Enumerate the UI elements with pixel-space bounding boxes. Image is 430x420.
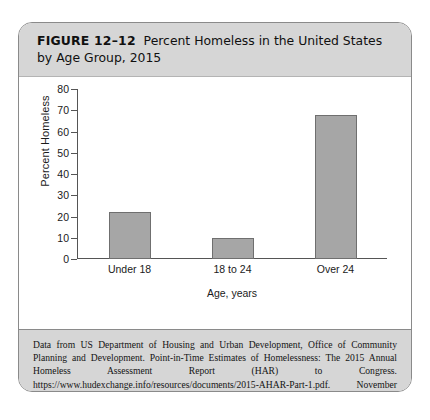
y-axis-tick-label: 80 <box>23 83 69 95</box>
y-axis-tick-label: 40 <box>23 168 69 180</box>
figure-header: FIGURE 12–12 Percent Homeless in the Uni… <box>19 23 411 77</box>
y-axis-tick-label: 30 <box>23 189 69 201</box>
figure-title-spacer <box>136 33 144 48</box>
y-axis-tick <box>71 89 77 90</box>
y-axis-tick-label: 50 <box>23 147 69 159</box>
y-axis-tick-label: 60 <box>23 126 69 138</box>
x-axis-tick-label: Over 24 <box>317 263 354 275</box>
x-axis-tick-label: Under 18 <box>108 263 151 275</box>
figure-source-caption: Data from US Department of Housing and U… <box>19 329 411 392</box>
y-axis-tick-label: 0 <box>23 253 69 265</box>
bar <box>109 212 151 259</box>
y-axis-tick-label: 20 <box>23 211 69 223</box>
figure-container: FIGURE 12–12 Percent Homeless in the Uni… <box>18 22 412 392</box>
bar <box>212 238 254 259</box>
y-axis-tick-label: 10 <box>23 232 69 244</box>
bars-layer <box>78 89 387 259</box>
bar <box>315 115 357 260</box>
y-axis-title: Percent Homeless <box>39 81 51 201</box>
x-axis-title: Age, years <box>77 287 387 299</box>
y-axis-tick <box>71 217 77 218</box>
y-axis-tick <box>71 132 77 133</box>
chart-plot-area: Percent Homeless 01020304050607080 Under… <box>19 77 411 329</box>
figure-number: FIGURE 12–12 <box>37 33 136 48</box>
y-axis-tick <box>71 153 77 154</box>
y-axis-tick <box>71 238 77 239</box>
y-axis-tick <box>71 259 77 260</box>
y-axis-tick <box>71 110 77 111</box>
figure-title-line: FIGURE 12–12 Percent Homeless in the Uni… <box>37 32 393 66</box>
y-axis-tick <box>71 174 77 175</box>
y-axis-tick <box>71 195 77 196</box>
y-axis-tick-label: 70 <box>23 104 69 116</box>
x-axis-tick-label: 18 to 24 <box>214 263 252 275</box>
